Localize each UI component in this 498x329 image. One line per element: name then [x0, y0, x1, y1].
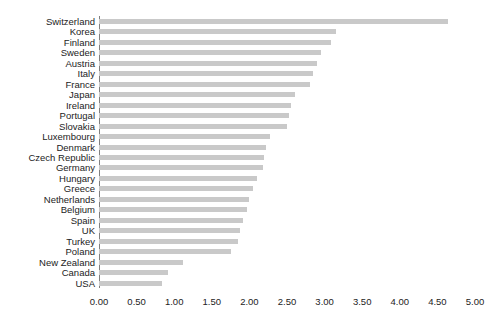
x-tick-label: 1.00 [165, 296, 184, 307]
bar [99, 155, 264, 160]
x-tick-label: 3.50 [353, 296, 372, 307]
bar [99, 92, 295, 97]
x-tick-label: 4.50 [428, 296, 447, 307]
bar [99, 270, 168, 275]
bar [99, 71, 313, 76]
x-tick-label: 2.50 [278, 296, 297, 307]
bar [99, 124, 287, 129]
bar [99, 19, 448, 24]
bar [99, 197, 249, 202]
bar [99, 29, 336, 34]
bar [99, 186, 253, 191]
bar [99, 145, 266, 150]
x-tick-label: 3.00 [315, 296, 334, 307]
bar [99, 61, 317, 66]
bar [99, 103, 291, 108]
bar [99, 207, 247, 212]
x-tick-label: 1.50 [203, 296, 222, 307]
bar [99, 218, 243, 223]
y-axis-category-labels: SwitzerlandKoreaFinlandSwedenAustriaItal… [0, 16, 95, 288]
x-tick-label: 0.50 [127, 296, 146, 307]
bar [99, 134, 270, 139]
x-axis-tick-labels: 0.000.501.001.502.002.503.003.504.004.50… [0, 296, 498, 316]
bar [99, 228, 240, 233]
x-tick-label: 5.00 [466, 296, 485, 307]
bar [99, 249, 231, 254]
bar-row [99, 278, 475, 290]
x-tick-label: 4.00 [391, 296, 410, 307]
bar [99, 176, 257, 181]
bar [99, 113, 289, 118]
bar [99, 50, 321, 55]
bar [99, 281, 162, 286]
bar [99, 165, 263, 170]
x-tick-label: 0.00 [90, 296, 109, 307]
plot-area [99, 16, 475, 288]
x-tick-label: 2.00 [240, 296, 259, 307]
bar [99, 239, 238, 244]
bar [99, 40, 331, 45]
horizontal-bar-chart: SwitzerlandKoreaFinlandSwedenAustriaItal… [0, 0, 498, 329]
category-label: USA [0, 278, 95, 290]
bar [99, 260, 183, 265]
bar [99, 82, 310, 87]
